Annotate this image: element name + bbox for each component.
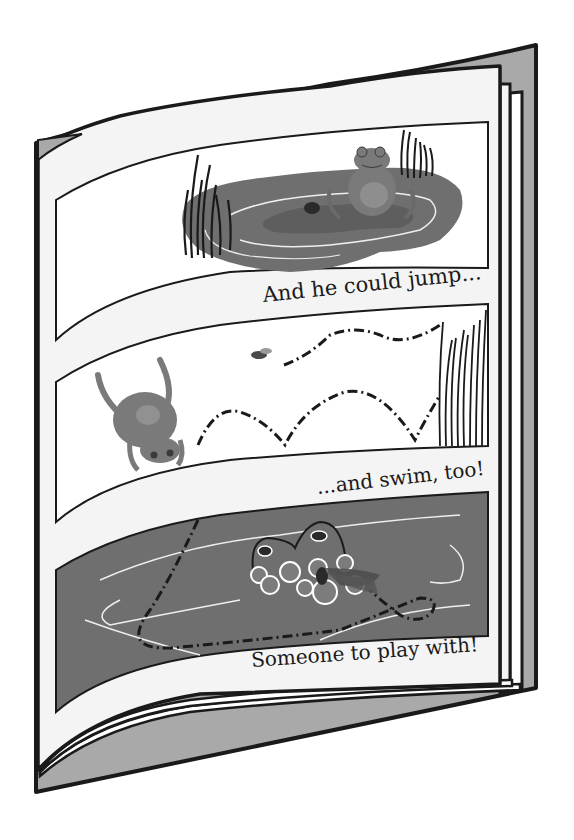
beetle (304, 202, 320, 214)
book-drawing (0, 0, 574, 840)
picture-book-illustration: And he could jump... ...and swim, too! S… (0, 0, 574, 840)
page-edge-right (510, 92, 522, 692)
